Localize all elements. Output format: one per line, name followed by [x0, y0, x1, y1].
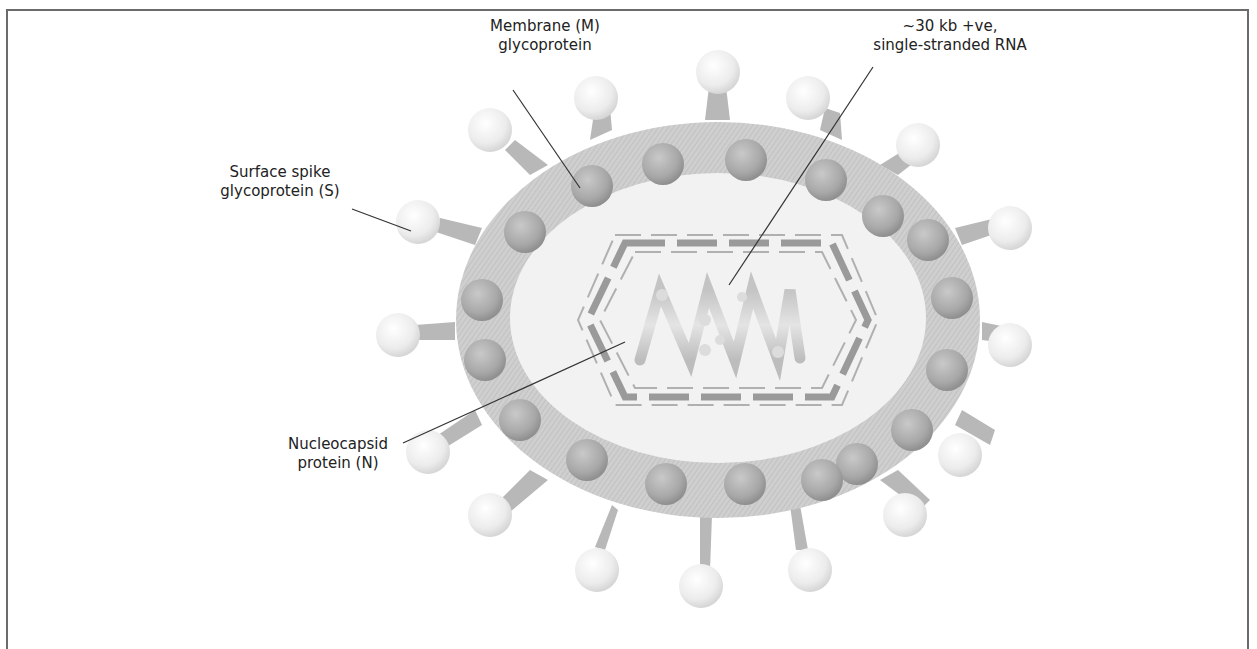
label-line: single-stranded RNA [850, 36, 1050, 55]
label-line: glycoprotein (S) [210, 182, 350, 201]
label-line: glycoprotein [470, 36, 620, 55]
spike [468, 470, 548, 537]
spike [376, 313, 455, 357]
label-line: Membrane (M) [470, 17, 620, 36]
spike [396, 200, 482, 245]
spike [938, 410, 995, 477]
label-line: Surface spike [210, 163, 350, 182]
spike [955, 206, 1032, 250]
label-rna: ~30 kb +ve, single-stranded RNA [850, 17, 1050, 55]
spike [468, 108, 548, 175]
label-membrane-glycoprotein: Membrane (M) glycoprotein [470, 17, 620, 55]
label-spike-glycoprotein: Surface spike glycoprotein (S) [210, 163, 350, 201]
label-line: protein (N) [278, 454, 398, 473]
spike [788, 505, 832, 592]
spike [880, 470, 930, 537]
spike [786, 76, 842, 140]
spike [696, 50, 740, 120]
label-line: ~30 kb +ve, [850, 17, 1050, 36]
spike [406, 410, 482, 474]
spike [679, 515, 723, 608]
spike [575, 505, 619, 592]
spike [880, 123, 940, 175]
label-nucleocapsid-protein: Nucleocapsid protein (N) [278, 435, 398, 473]
spike [574, 76, 618, 140]
label-line: Nucleocapsid [278, 435, 398, 454]
spike [982, 322, 1032, 367]
